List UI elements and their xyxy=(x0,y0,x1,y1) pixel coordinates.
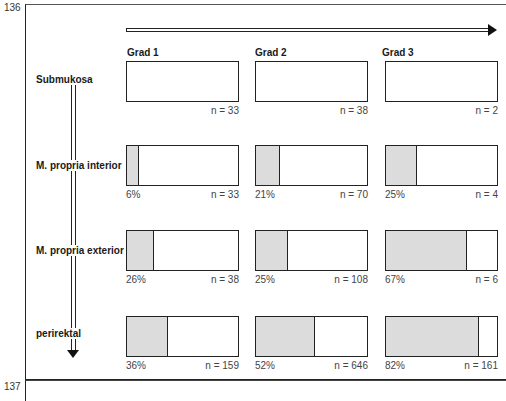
next-figure-frame xyxy=(25,380,506,401)
grade-header-2: Grad 2 xyxy=(255,47,287,58)
bar-fill xyxy=(127,317,168,356)
bar-cell xyxy=(126,61,239,102)
bar-cell xyxy=(255,145,368,186)
sample-size-label: n = 4 xyxy=(385,189,498,200)
bar-cell xyxy=(385,316,498,357)
arrow-down-icon xyxy=(67,350,79,358)
bar-cell xyxy=(255,61,368,102)
bar-fill xyxy=(386,317,479,356)
sample-size-label: n = 33 xyxy=(126,189,239,200)
grade-header-1: Grad 1 xyxy=(127,47,159,58)
bar-cell xyxy=(126,145,239,186)
sample-size-label: n = 33 xyxy=(126,105,239,116)
bar-cell xyxy=(385,145,498,186)
bar-fill xyxy=(386,231,467,270)
sample-size-label: n = 646 xyxy=(255,360,368,371)
depth-axis-arrow xyxy=(71,78,76,350)
sample-size-label: n = 70 xyxy=(255,189,368,200)
bar-fill xyxy=(127,231,154,270)
row-label-submukosa: Submukosa xyxy=(34,74,95,85)
sample-size-label: n = 161 xyxy=(385,360,498,371)
bar-cell xyxy=(385,230,498,271)
bar-fill xyxy=(256,146,280,185)
page-number-bottom: 137 xyxy=(4,381,21,392)
bar-fill xyxy=(386,146,417,185)
bar-cell xyxy=(385,61,498,102)
row-label-m-propria-interior: M. propria interior xyxy=(34,160,124,171)
sample-size-label: n = 2 xyxy=(385,105,498,116)
bar-fill xyxy=(256,317,315,356)
bar-cell xyxy=(126,316,239,357)
sample-size-label: n = 38 xyxy=(126,274,239,285)
grade-header-3: Grad 3 xyxy=(382,47,414,58)
bar-fill xyxy=(127,146,139,185)
sample-size-label: n = 159 xyxy=(126,360,239,371)
bar-cell xyxy=(126,230,239,271)
sample-size-label: n = 108 xyxy=(255,274,368,285)
row-label-m-propria-exterior: M. propria exterior xyxy=(34,245,126,256)
row-label-perirektal: perirektal xyxy=(34,328,83,339)
arrow-right-icon xyxy=(488,24,497,36)
bar-cell xyxy=(255,316,368,357)
sample-size-label: n = 38 xyxy=(255,105,368,116)
bar-cell xyxy=(255,230,368,271)
grade-axis-arrow xyxy=(126,28,488,32)
sample-size-label: n = 6 xyxy=(385,274,498,285)
page-number-top: 136 xyxy=(4,2,21,13)
bar-fill xyxy=(256,231,288,270)
